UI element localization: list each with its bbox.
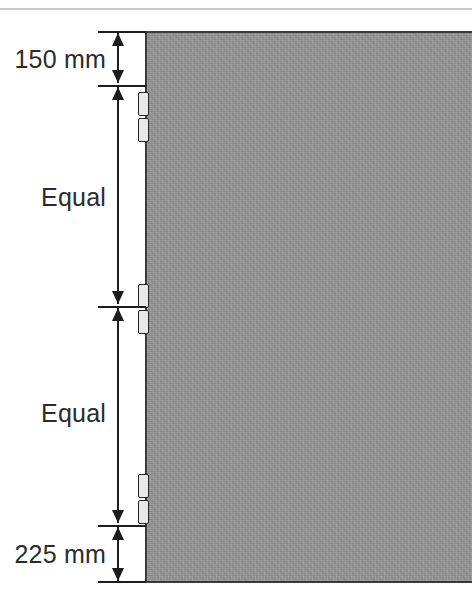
arrowhead-down-top — [112, 70, 124, 83]
arrowhead-down-equal-lower — [112, 510, 124, 523]
hinge-bottom — [138, 474, 149, 524]
hinge-middle — [138, 284, 149, 334]
hinge-leaf-upper — [138, 474, 149, 498]
dimension-label-top: 150 mm — [0, 45, 106, 74]
dimension-line-equal-upper — [117, 87, 119, 304]
door-panel — [145, 31, 472, 583]
dimension-label-equal-upper: Equal — [0, 183, 106, 212]
panel-texture — [147, 33, 472, 581]
extension-line-door-bottom — [98, 581, 146, 583]
dimension-line-equal-lower — [117, 308, 119, 523]
hinge-leaf-lower — [138, 310, 149, 334]
hinge-leaf-upper — [138, 92, 149, 116]
hinge-leaf-lower — [138, 500, 149, 524]
hinge-leaf-lower — [138, 118, 149, 142]
dimension-label-bottom: 225 mm — [0, 540, 106, 569]
arrowhead-up-equal-upper — [112, 87, 124, 100]
diagram-canvas: 150 mm Equal Equal 225 mm — [0, 0, 472, 604]
arrowhead-down-bottom — [112, 568, 124, 581]
arrowhead-down-equal-upper — [112, 291, 124, 304]
hinge-leaf-upper — [138, 284, 149, 308]
dimension-label-equal-lower: Equal — [0, 399, 106, 428]
arrowhead-up-top — [112, 33, 124, 46]
arrowhead-up-equal-lower — [112, 308, 124, 321]
hinge-top — [138, 92, 149, 142]
page-top-rule — [0, 8, 472, 10]
arrowhead-up-bottom — [112, 527, 124, 540]
